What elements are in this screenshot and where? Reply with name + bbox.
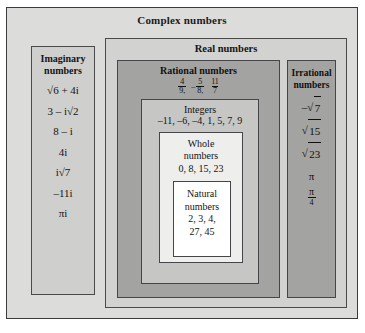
fraction-numerator: 4 xyxy=(179,78,185,86)
radical-icon: √ xyxy=(302,119,308,142)
fraction-denominator: 8, xyxy=(196,86,204,95)
square-root-expression: √ 23 xyxy=(302,142,322,165)
irrational-numbers-label-line2: numbers xyxy=(288,80,335,92)
radicand: 7 xyxy=(314,96,322,119)
natural-numbers-region: Natural numbers 2, 3, 4, 27, 45 xyxy=(173,181,231,257)
natural-numbers-values-line1: 2, 3, 4, xyxy=(174,213,230,226)
fraction: π 4 xyxy=(308,187,316,207)
irrational-number-item: π 4 xyxy=(288,187,335,207)
imaginary-number-item: 8 – i xyxy=(32,121,94,142)
radical-icon: √ xyxy=(302,142,308,165)
real-numbers-region: Real numbers Rational numbers 4 9, – xyxy=(105,38,347,308)
irrational-numbers-list: – √ 7 √ 15 √ 23 xyxy=(288,96,335,207)
irrational-number-item: π xyxy=(288,165,335,187)
number-systems-diagram: Complex numbers Imaginary numbers √6 + 4… xyxy=(0,0,365,333)
integers-label: Integers xyxy=(142,104,258,115)
imaginary-numbers-label-line2: numbers xyxy=(32,65,94,77)
imaginary-number-item: 4i xyxy=(32,142,94,163)
square-root-expression: √ 15 xyxy=(302,119,322,142)
imaginary-number-item: i√7 xyxy=(32,162,94,183)
fraction: 4 9, xyxy=(178,78,186,94)
integers-region: Integers –11, –6, –4, 1, 5, 7, 9 Whole n… xyxy=(141,99,259,284)
radical-icon: √ xyxy=(307,96,313,119)
complex-numbers-region: Complex numbers Imaginary numbers √6 + 4… xyxy=(6,7,358,319)
fraction-denominator: 7 xyxy=(212,86,218,95)
fraction-numerator: π xyxy=(309,187,314,197)
whole-numbers-label-line1: Whole xyxy=(160,138,242,150)
rational-example: – 5 8, xyxy=(191,78,204,94)
irrational-numbers-region: Irrational numbers – √ 7 √ 15 xyxy=(287,60,336,298)
natural-numbers-label-line2: numbers xyxy=(174,201,230,214)
rational-example-sign: – xyxy=(191,82,195,91)
real-numbers-label: Real numbers xyxy=(106,43,346,54)
rational-example: 11 7 xyxy=(209,78,220,94)
natural-numbers-label: Natural numbers xyxy=(174,188,230,213)
imaginary-number-item: πi xyxy=(32,203,94,224)
irrational-number-item: √ 15 xyxy=(288,119,335,142)
radicand: 23 xyxy=(308,142,321,165)
fraction: 11 7 xyxy=(210,78,220,94)
fraction-numerator: 11 xyxy=(210,78,220,86)
irrational-number-item: √ 23 xyxy=(288,142,335,165)
imaginary-numbers-label: Imaginary numbers xyxy=(32,53,94,76)
whole-numbers-label: Whole numbers xyxy=(160,138,242,162)
integers-values: –11, –6, –4, 1, 5, 7, 9 xyxy=(142,115,258,126)
imaginary-numbers-label-line1: Imaginary xyxy=(32,53,94,65)
irrational-numbers-label-line1: Irrational xyxy=(288,68,335,80)
complex-numbers-label: Complex numbers xyxy=(7,14,357,26)
irrational-number-item: – √ 7 xyxy=(288,96,335,119)
rational-numbers-examples: 4 9, – 5 8, 11 xyxy=(118,78,279,94)
whole-numbers-label-line2: numbers xyxy=(160,150,242,162)
natural-numbers-label-line1: Natural xyxy=(174,188,230,201)
fraction-denominator: 9, xyxy=(178,86,186,95)
imaginary-number-item: √6 + 4i xyxy=(32,80,94,101)
rational-numbers-region: Rational numbers 4 9, – 5 8, xyxy=(117,60,280,298)
fraction: 5 8, xyxy=(196,78,204,94)
square-root-expression: – √ 7 xyxy=(302,96,322,119)
fraction-denominator: 4 xyxy=(308,197,316,207)
fraction-numerator: 5 xyxy=(197,78,203,86)
irrational-numbers-label: Irrational numbers xyxy=(288,68,335,91)
natural-numbers-values-line2: 27, 45 xyxy=(174,226,230,239)
imaginary-number-item: 3 – i√2 xyxy=(32,101,94,122)
rational-numbers-label: Rational numbers xyxy=(118,65,279,76)
imaginary-numbers-region: Imaginary numbers √6 + 4i 3 – i√2 8 – i … xyxy=(31,46,95,295)
whole-numbers-region: Whole numbers 0, 8, 15, 23 Natural numbe… xyxy=(159,132,243,263)
rational-example: 4 9, xyxy=(177,78,186,94)
radicand: 15 xyxy=(308,119,321,142)
whole-numbers-values: 0, 8, 15, 23 xyxy=(160,162,242,175)
imaginary-numbers-list: √6 + 4i 3 – i√2 8 – i 4i i√7 –11i πi xyxy=(32,80,94,224)
imaginary-number-item: –11i xyxy=(32,183,94,204)
